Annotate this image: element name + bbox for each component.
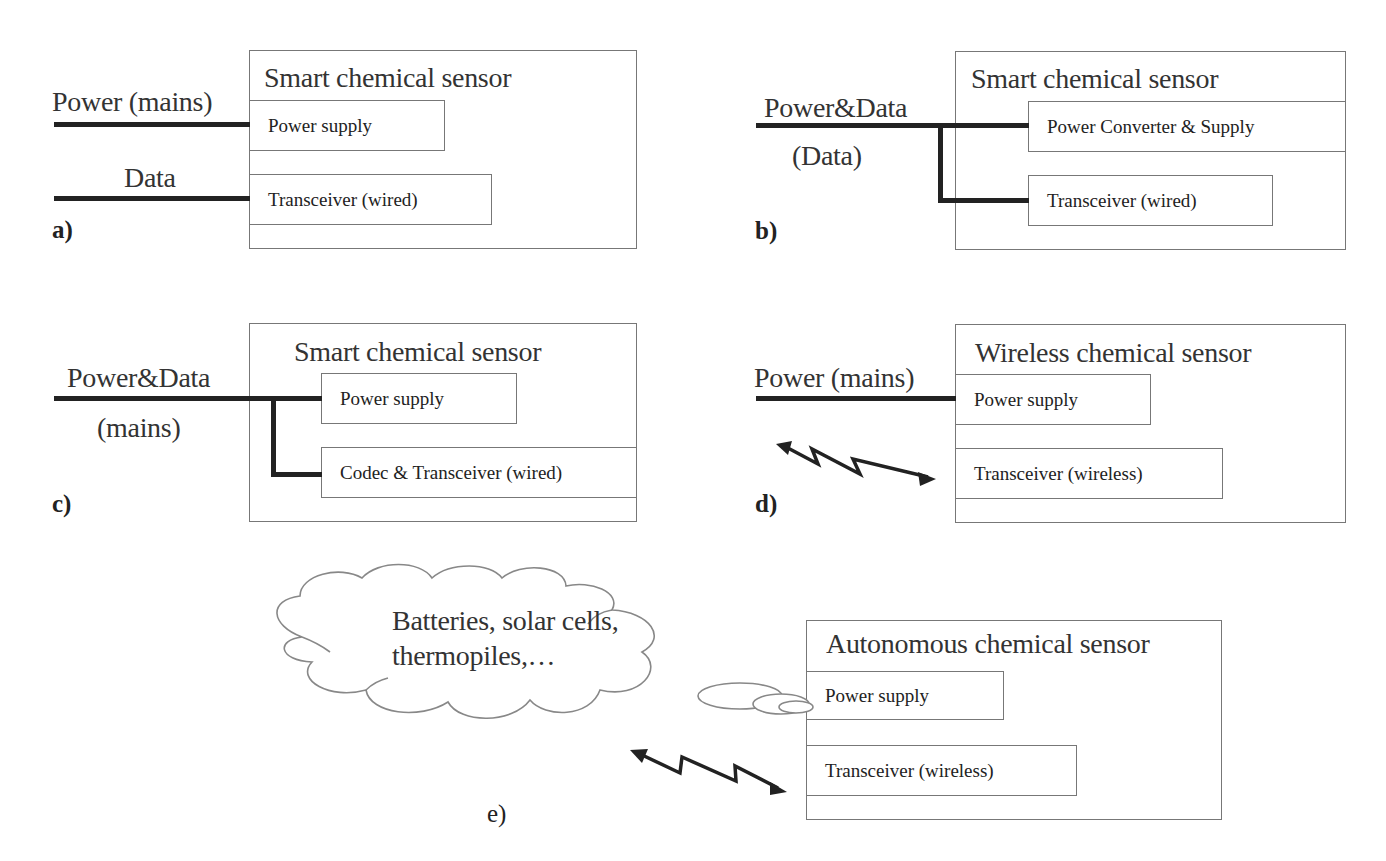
diagram-vector-layer bbox=[0, 0, 1386, 861]
wireless-link-icon-e bbox=[630, 749, 787, 795]
wireless-link-icon-d bbox=[776, 441, 936, 486]
cloud-text-line-2: thermopiles,… bbox=[392, 640, 555, 672]
cloud-text-line-1: Batteries, solar cells, bbox=[392, 605, 618, 637]
